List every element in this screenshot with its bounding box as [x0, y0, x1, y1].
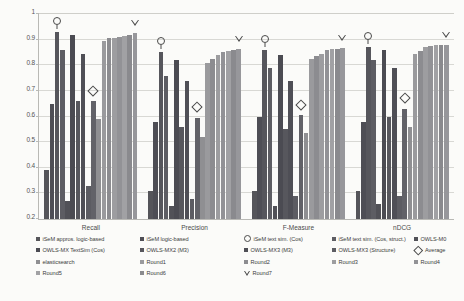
- legend-item[interactable]: iSeM logic-based: [140, 236, 189, 242]
- legend-item[interactable]: OWLS-MX3 (Structure): [332, 247, 395, 253]
- legend-item[interactable]: Round5: [36, 270, 62, 276]
- legend-item[interactable]: Round6: [140, 270, 166, 276]
- legend-item[interactable]: Round1: [140, 259, 166, 265]
- bars: [247, 14, 351, 219]
- bar[interactable]: [278, 55, 283, 219]
- bar[interactable]: [91, 101, 96, 219]
- bar[interactable]: [439, 45, 444, 219]
- bar[interactable]: [325, 50, 330, 219]
- bar[interactable]: [428, 46, 433, 219]
- bar[interactable]: [210, 59, 215, 219]
- bar[interactable]: [102, 41, 107, 219]
- bar[interactable]: [293, 196, 298, 219]
- bar[interactable]: [268, 68, 273, 219]
- bar[interactable]: [221, 52, 226, 219]
- bar[interactable]: [397, 196, 402, 219]
- bar[interactable]: [273, 206, 278, 219]
- bar[interactable]: [179, 127, 184, 219]
- bar[interactable]: [190, 199, 195, 220]
- bar[interactable]: [112, 38, 117, 219]
- bar[interactable]: [335, 49, 340, 219]
- legend-item[interactable]: elasticsearch: [36, 259, 75, 265]
- bar[interactable]: [174, 60, 179, 219]
- bar[interactable]: [65, 201, 70, 219]
- bar[interactable]: [413, 54, 418, 219]
- legend-item[interactable]: iSeM appros. logic-based: [36, 236, 104, 242]
- bar[interactable]: [319, 54, 324, 219]
- bar[interactable]: [408, 127, 413, 219]
- legend-item[interactable]: iSeM text sim. (Cos): [244, 235, 303, 242]
- bar[interactable]: [226, 51, 231, 219]
- bar[interactable]: [356, 191, 361, 219]
- bar[interactable]: [159, 52, 164, 219]
- bar[interactable]: [122, 36, 127, 219]
- legend-item[interactable]: OWLS-MX2 (M3): [140, 247, 189, 253]
- bar[interactable]: [195, 118, 200, 219]
- legend-item[interactable]: OWLS-M0: [414, 236, 446, 242]
- bar[interactable]: [231, 50, 236, 219]
- bar[interactable]: [444, 45, 449, 219]
- bar[interactable]: [44, 170, 49, 219]
- bar[interactable]: [81, 54, 86, 219]
- legend-item[interactable]: Average: [414, 247, 445, 254]
- legend-item[interactable]: OWLS-MX TextSim (Cos): [36, 247, 105, 253]
- bar[interactable]: [205, 63, 210, 219]
- bar[interactable]: [127, 35, 132, 219]
- bar[interactable]: [330, 49, 335, 219]
- bar[interactable]: [309, 59, 314, 219]
- bar[interactable]: [340, 48, 345, 219]
- bar[interactable]: [216, 55, 221, 219]
- bar[interactable]: [387, 117, 392, 220]
- bar[interactable]: [288, 81, 293, 219]
- bar[interactable]: [200, 137, 205, 219]
- legend-swatch-icon: [140, 237, 144, 241]
- bar-group: F-Measure: [247, 14, 351, 219]
- bar[interactable]: [366, 47, 371, 219]
- bar[interactable]: [148, 191, 153, 219]
- bar[interactable]: [252, 191, 257, 219]
- bar[interactable]: [392, 68, 397, 219]
- bar[interactable]: [262, 50, 267, 219]
- bar[interactable]: [50, 104, 55, 219]
- legend-item[interactable]: Round7: [244, 270, 272, 276]
- bar[interactable]: [382, 50, 387, 219]
- bar[interactable]: [185, 81, 190, 219]
- bar[interactable]: [418, 51, 423, 219]
- bar[interactable]: [169, 206, 174, 219]
- y-axis-tick-label: 0.9: [27, 33, 35, 40]
- bar[interactable]: [107, 38, 112, 219]
- bar[interactable]: [55, 32, 60, 219]
- bar[interactable]: [402, 109, 407, 219]
- bar[interactable]: [76, 101, 81, 219]
- bar[interactable]: [86, 186, 91, 219]
- bar[interactable]: [423, 47, 428, 219]
- bar[interactable]: [314, 56, 319, 219]
- bar[interactable]: [133, 33, 138, 219]
- y-axis-tick-label: 0.8: [27, 59, 35, 66]
- bar-groups: RecallPrecisionF-MeasurenDCG: [39, 14, 454, 219]
- legend-item[interactable]: OWLS-MX3 (M3): [244, 247, 293, 253]
- bar[interactable]: [96, 119, 101, 219]
- legend-swatch-icon: [36, 237, 40, 241]
- bar[interactable]: [257, 117, 262, 220]
- legend-swatch-icon: [36, 271, 40, 275]
- bar[interactable]: [70, 35, 75, 220]
- legend-swatch-icon: [414, 260, 418, 264]
- bar[interactable]: [60, 50, 65, 219]
- legend-item[interactable]: Round4: [414, 259, 440, 265]
- bar[interactable]: [304, 133, 309, 219]
- bar[interactable]: [371, 60, 376, 219]
- legend-item[interactable]: Round3: [332, 259, 358, 265]
- bar[interactable]: [299, 115, 304, 219]
- bar[interactable]: [376, 204, 381, 219]
- bar[interactable]: [283, 129, 288, 219]
- legend-item[interactable]: iSeM text sim. (Cos, struct.): [332, 236, 406, 242]
- legend-item[interactable]: Round2: [244, 259, 270, 265]
- bar[interactable]: [361, 122, 366, 219]
- chart-legend: iSeM appros. logic-basediSeM logic-based…: [36, 234, 460, 280]
- bar[interactable]: [236, 49, 241, 219]
- bar[interactable]: [164, 76, 169, 220]
- bar[interactable]: [153, 122, 158, 219]
- bar[interactable]: [434, 45, 439, 219]
- bar[interactable]: [117, 37, 122, 219]
